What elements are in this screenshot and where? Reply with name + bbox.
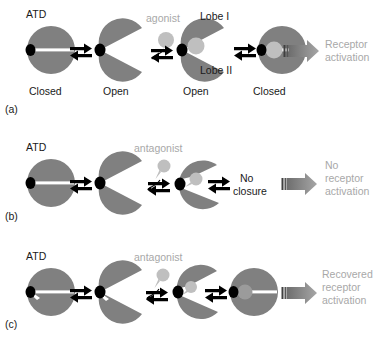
outcome-line-2-c: receptor	[322, 281, 361, 294]
panel-tag-c: (c)	[5, 318, 17, 330]
outcome-line-3-c: activation	[322, 294, 366, 307]
lobe-ii-label-a: Lobe II	[200, 64, 232, 77]
outcome-line-3-b: activation	[325, 185, 369, 198]
outcome-line-1-a: Receptor	[325, 38, 368, 51]
atd-label-b: ATD	[26, 141, 46, 154]
outcome-line-1-b: No	[325, 159, 338, 172]
state-label-a-4: Closed	[253, 85, 286, 98]
antagonist-label-b: antagonist	[134, 142, 182, 155]
state-label-a-1: Closed	[29, 85, 62, 98]
panel-tag-a: (a)	[5, 103, 18, 115]
receptor-open-unbound-a	[90, 24, 148, 76]
atd-label-c: ATD	[26, 250, 46, 263]
outcome-line-1-c: Recovered	[322, 268, 373, 281]
receptor-open-mutant-c	[90, 266, 148, 318]
antagonist-label-c: antagonist	[134, 251, 182, 264]
atd-label-a: ATD	[26, 8, 46, 21]
block-arrow-b	[281, 171, 319, 197]
equilibrium-arrow-b3	[206, 173, 232, 195]
no-closure-line-2-b: closure	[233, 185, 267, 198]
panel-a: ATD agonist	[0, 0, 377, 115]
outcome-line-2-a: activation	[325, 51, 369, 64]
panel-c: ATD antagonist	[0, 230, 377, 345]
lobe-i-label-a: Lobe I	[200, 10, 229, 23]
figure-receptor-activation-diagram: ATD agonist	[0, 0, 377, 345]
panel-tag-b: (b)	[5, 210, 18, 222]
no-closure-line-1-b: No	[240, 172, 253, 185]
receptor-open-unbound-b	[90, 157, 148, 209]
outcome-line-2-b: receptor	[325, 172, 364, 185]
receptor-closed-recovered-c	[225, 266, 283, 318]
block-arrow-a	[283, 38, 321, 64]
panel-b: ATD antagonist	[0, 115, 377, 230]
state-label-a-3: Open	[183, 85, 209, 98]
state-label-a-2: Open	[103, 85, 129, 98]
agonist-label-a: agonist	[146, 12, 180, 25]
block-arrow-c	[281, 280, 319, 306]
